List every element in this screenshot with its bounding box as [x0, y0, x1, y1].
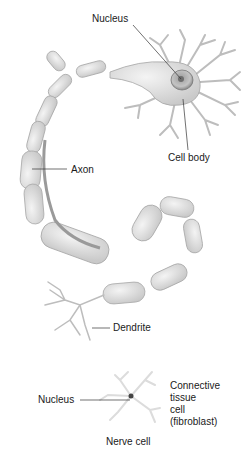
label-cell-body: Cell body	[168, 152, 210, 164]
label-dendrite: Dendrite	[113, 322, 151, 334]
label-nucleus-top: Nucleus	[92, 13, 128, 25]
label-nucleus-bottom: Nucleus	[38, 394, 74, 406]
label-nerve-cell: Nerve cell	[106, 436, 150, 448]
axon-terminal-dendrites	[45, 282, 104, 340]
label-connective-tissue-cell: Connective tissue cell (fibroblast)	[170, 380, 240, 428]
label-axon: Axon	[71, 164, 94, 176]
fibroblast-nucleus	[129, 394, 134, 399]
